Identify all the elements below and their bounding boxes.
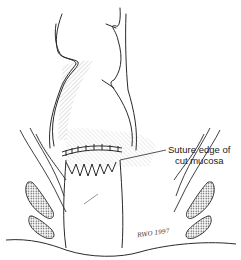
callout-line-1: Suture edge of <box>168 144 230 155</box>
inner-wall-shading <box>58 61 94 140</box>
right-sphincter <box>186 182 214 239</box>
callout-line-2: cut mucosa <box>168 155 230 166</box>
mucosa-shading <box>66 128 156 168</box>
anatomical-illustration <box>0 0 241 260</box>
left-sphincter <box>26 182 54 239</box>
callout-label: Suture edge of cut mucosa <box>168 144 230 166</box>
